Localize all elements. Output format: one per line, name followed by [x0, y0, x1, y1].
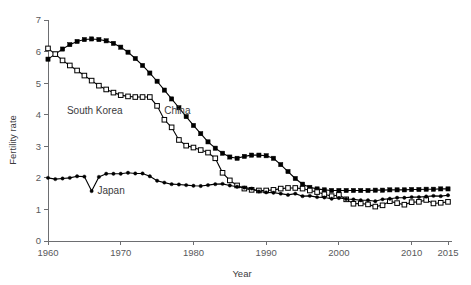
data-point	[352, 198, 355, 201]
data-point	[286, 186, 291, 191]
data-point	[402, 202, 407, 207]
x-axis-tick-label: 1960	[37, 247, 58, 258]
data-point	[264, 191, 267, 194]
y-axis-tick-label: 3	[36, 141, 41, 152]
data-point	[141, 172, 144, 175]
data-point	[60, 58, 65, 63]
data-point	[439, 194, 442, 197]
data-point	[213, 156, 218, 161]
data-point	[308, 194, 311, 197]
data-point	[264, 154, 268, 158]
data-point	[162, 117, 167, 122]
y-axis-tick-label: 0	[36, 235, 41, 246]
data-point	[424, 195, 427, 198]
data-point	[112, 172, 115, 175]
data-point	[417, 187, 421, 191]
data-point	[68, 43, 72, 47]
data-point	[242, 154, 246, 158]
data-point	[220, 171, 225, 176]
data-point	[90, 189, 93, 192]
data-point	[323, 196, 326, 199]
data-point	[68, 176, 71, 179]
data-point	[293, 186, 298, 191]
data-point	[315, 195, 318, 198]
data-point	[250, 187, 253, 190]
data-point	[206, 150, 211, 155]
series-layer	[46, 37, 451, 209]
data-point	[409, 200, 414, 205]
x-axis-tick-label: 2000	[328, 247, 349, 258]
y-axis-tick-label: 5	[36, 78, 41, 89]
data-point	[220, 151, 224, 155]
data-point	[410, 195, 413, 198]
data-point	[184, 183, 187, 186]
data-point	[417, 195, 420, 198]
data-point	[294, 192, 297, 195]
data-point	[330, 188, 334, 192]
data-point	[402, 188, 406, 192]
data-point	[279, 192, 282, 195]
data-point	[46, 176, 49, 179]
data-point	[366, 199, 369, 202]
data-point	[359, 188, 363, 192]
x-axis-tick-label: 1970	[110, 247, 131, 258]
data-point	[104, 39, 108, 43]
data-point	[54, 177, 57, 180]
data-point	[177, 138, 182, 143]
data-point	[118, 93, 123, 98]
data-point	[446, 187, 450, 191]
data-point	[97, 83, 102, 88]
data-point	[75, 175, 78, 178]
data-point	[301, 194, 304, 197]
y-axis-tick-label: 6	[36, 46, 41, 57]
series-label-japan: Japan	[97, 185, 124, 196]
data-point	[198, 148, 203, 153]
y-axis-tick-label: 7	[36, 14, 41, 25]
data-point	[170, 97, 174, 101]
x-axis-tick-label: 1980	[183, 247, 204, 258]
data-point	[111, 90, 116, 95]
x-axis-tick-label: 1990	[256, 247, 277, 258]
data-point	[235, 185, 238, 188]
data-point	[286, 169, 290, 173]
data-point	[257, 153, 261, 157]
data-point	[221, 182, 224, 185]
data-point	[373, 188, 377, 192]
data-point	[119, 45, 123, 49]
data-point	[446, 194, 449, 197]
x-axis: 1960197019801990200020102015	[37, 241, 458, 258]
data-point	[155, 179, 158, 182]
data-point	[133, 95, 138, 100]
series-annotations: ChinaSouth KoreaJapan	[67, 105, 191, 196]
data-point	[374, 200, 377, 203]
data-point	[213, 146, 217, 150]
data-point	[163, 181, 166, 184]
data-point	[373, 204, 378, 209]
x-axis-tick-label: 2010	[401, 247, 422, 258]
data-point	[83, 175, 86, 178]
data-point	[380, 188, 384, 192]
data-point	[446, 200, 451, 205]
data-point	[97, 37, 101, 41]
data-point	[337, 188, 341, 192]
y-axis-tick-label: 1	[36, 204, 41, 215]
data-point	[191, 145, 196, 150]
data-point	[53, 52, 58, 57]
data-point	[155, 79, 159, 83]
data-point	[257, 190, 260, 193]
data-point	[300, 182, 304, 186]
data-point	[46, 57, 50, 61]
data-point	[199, 184, 202, 187]
data-point	[126, 171, 129, 174]
data-point	[184, 143, 189, 148]
data-point	[104, 87, 109, 92]
data-point	[308, 188, 313, 193]
data-point	[170, 182, 173, 185]
data-point	[431, 187, 435, 191]
data-point	[82, 73, 87, 78]
data-point	[431, 201, 436, 206]
data-point	[410, 187, 414, 191]
data-point	[322, 188, 326, 192]
data-point	[177, 183, 180, 186]
data-point	[104, 172, 107, 175]
